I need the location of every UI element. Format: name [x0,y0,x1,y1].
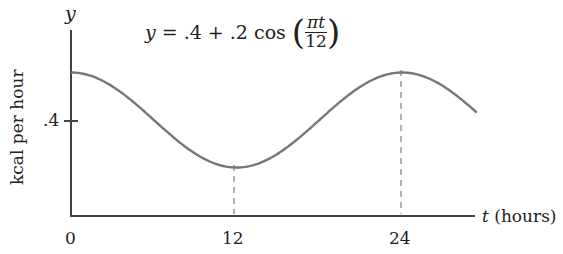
cosine-curve [71,73,477,168]
paren-close: ) [327,15,340,49]
x-tick-label-0: 0 [65,228,76,248]
y-tick-label-0.4: .4 [43,110,59,130]
fraction-denominator: 12 [305,33,327,51]
x-axis-variable: t [482,206,489,226]
x-tick-label-12: 12 [222,228,244,248]
equation: y = .4 + .2 cos ( πt 12 ) [145,14,340,51]
fraction: πt 12 [305,14,327,51]
y-axis-label: kcal per hour [7,75,27,185]
x-tick-label-24: 24 [389,228,411,248]
x-axis-label: t (hours) [482,206,557,226]
paren-open: ( [292,15,305,49]
equation-rhs: = .4 + .2 cos [162,21,286,43]
x-axis-unit: (hours) [494,206,556,226]
equation-lhs: y [145,21,156,43]
y-axis-variable: y [65,2,76,24]
